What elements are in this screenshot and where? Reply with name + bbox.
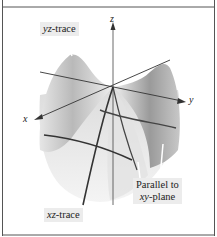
parallel-label-var: xy — [140, 191, 149, 202]
parallel-to-xy-plane-label: Parallel to xy-plane — [133, 178, 182, 204]
xz-trace-label-rest: -trace — [56, 209, 80, 220]
parallel-label-line1: Parallel to — [136, 179, 179, 191]
parallel-label-line2: xy-plane — [136, 191, 179, 203]
yz-trace-label: yz-trace — [40, 22, 79, 36]
parallel-label-rest: -plane — [149, 191, 175, 202]
y-axis-arrow — [177, 98, 186, 104]
x-axis-arrow — [34, 114, 43, 120]
yz-leader — [65, 38, 72, 56]
figure-graphic — [0, 0, 217, 237]
xz-trace-label-var: xz — [47, 209, 56, 220]
x-axis-label: x — [23, 113, 27, 124]
yz-trace-label-rest: -trace — [52, 23, 76, 34]
z-axis-label: z — [110, 13, 114, 24]
yz-trace-label-var: yz — [43, 23, 52, 34]
xz-trace-label: xz-trace — [44, 208, 83, 222]
saddle-surface-figure: z y x yz-trace Parallel to xy-plane xz-t… — [0, 0, 217, 237]
y-axis-label: y — [189, 94, 193, 105]
